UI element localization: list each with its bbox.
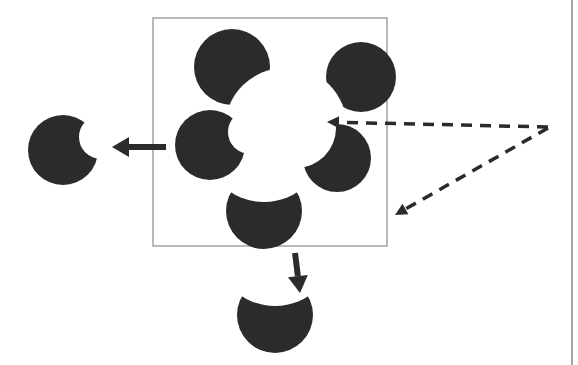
- illusory-contour-diagram: [0, 0, 578, 365]
- diagram-svg: [0, 0, 578, 365]
- notched-disc-extracted-left: [28, 115, 98, 185]
- arrow-shaft: [295, 253, 298, 276]
- notched-disc-left: [175, 110, 245, 180]
- notched-disc-right: [303, 124, 371, 192]
- notched-disc-bottom: [226, 173, 302, 249]
- notched-disc-top: [194, 29, 270, 105]
- notched-disc-top-right: [326, 42, 396, 112]
